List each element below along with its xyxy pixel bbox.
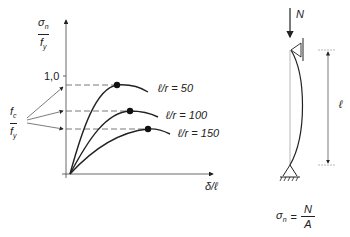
- peak-dot-3: [145, 126, 151, 132]
- curve-lr-150: [70, 129, 170, 174]
- column-buckling-diagram: σn fy 1,0 fc fy ℓ/r = 50 ℓ/r = 100 ℓ/r =…: [0, 0, 350, 237]
- arrow-to-level-3: [27, 123, 63, 129]
- curve-lr-50: [70, 85, 148, 174]
- tick-label-one: 1,0: [44, 70, 59, 82]
- peak-dot-1: [114, 82, 120, 88]
- top-support-icon: [291, 43, 301, 57]
- curve-label-50: ℓ/r = 50: [158, 82, 193, 94]
- curve-lr-100: [70, 111, 158, 174]
- deflected-column: [290, 50, 303, 165]
- bottom-pin-support-icon: [283, 165, 297, 176]
- curve-label-100: ℓ/r = 100: [166, 109, 207, 121]
- length-label: ℓ: [339, 98, 343, 110]
- stress-formula: σn = N A: [276, 203, 315, 230]
- peak-dot-2: [127, 108, 133, 114]
- y-axis-label: σn fy: [38, 16, 49, 53]
- curve-label-150: ℓ/r = 150: [178, 127, 219, 139]
- arrow-to-level-1: [27, 87, 63, 118]
- x-axis-label: δ/ℓ: [205, 180, 218, 192]
- arrow-to-level-2: [27, 111, 63, 120]
- load-label: N: [296, 8, 304, 20]
- fc-fy-label: fc fy: [10, 105, 17, 142]
